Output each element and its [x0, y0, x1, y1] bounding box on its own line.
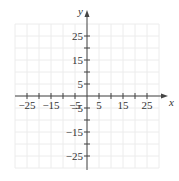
y-tick-label: 25: [72, 30, 84, 42]
y-tick-label: −25: [66, 150, 84, 162]
y-tick-label: 15: [72, 54, 84, 66]
x-tick-label: 15: [118, 99, 130, 111]
y-axis-arrow-icon: [85, 10, 90, 17]
y-tick-label: −5: [71, 102, 83, 114]
x-axis-label: x: [168, 96, 174, 108]
y-tick-label: −15: [66, 126, 84, 138]
y-tick-label: 5: [78, 78, 84, 90]
x-tick-label: −15: [42, 99, 60, 111]
coordinate-plane: −25−15−55152525155−5−15−25 x y: [0, 0, 179, 181]
x-tick-label: 25: [142, 99, 154, 111]
x-tick-label: −25: [18, 99, 36, 111]
y-axis-label: y: [77, 5, 83, 17]
axes: [15, 10, 168, 170]
x-tick-label: 5: [96, 99, 102, 111]
x-axis-arrow-icon: [161, 94, 168, 99]
